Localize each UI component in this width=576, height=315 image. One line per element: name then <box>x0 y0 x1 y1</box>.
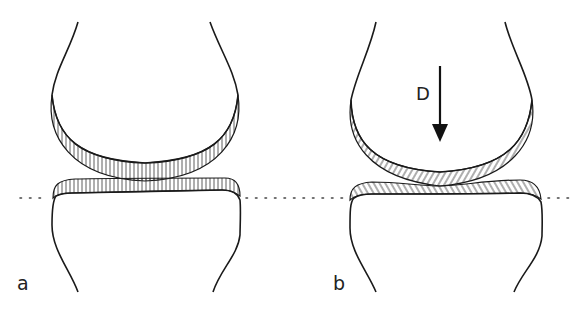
force-arrow-down-icon <box>432 66 448 142</box>
upper-cartilage-a <box>51 95 239 181</box>
lower-bone-b <box>350 193 542 292</box>
panel-a <box>51 22 240 292</box>
joint-diagram <box>0 0 576 315</box>
panel-label-a: a <box>17 274 29 293</box>
force-label: D <box>416 85 430 103</box>
upper-bone-a <box>52 22 238 163</box>
lower-bone-a <box>52 190 240 292</box>
upper-bone-b <box>351 22 532 172</box>
upper-cartilage-b <box>350 100 533 186</box>
panel-b <box>350 22 542 292</box>
panel-label-b: b <box>333 274 345 293</box>
lower-cartilage-a <box>53 178 240 198</box>
